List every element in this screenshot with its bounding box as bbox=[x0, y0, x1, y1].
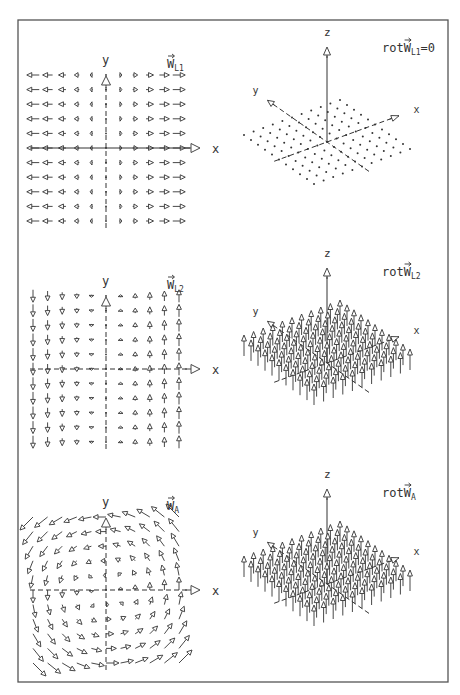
curl-vector-head bbox=[291, 590, 296, 596]
curl-vector-head bbox=[369, 363, 374, 369]
grid-point bbox=[312, 131, 314, 133]
field-vector-head bbox=[34, 627, 38, 633]
grid-point bbox=[381, 128, 383, 130]
field-vector-head bbox=[149, 219, 154, 224]
field-vector-head bbox=[31, 429, 36, 434]
field-vector-head bbox=[74, 426, 79, 430]
grid-point bbox=[316, 145, 318, 147]
grid-point bbox=[347, 156, 349, 158]
field-vector-shaft bbox=[46, 575, 47, 581]
field-vector-head bbox=[149, 102, 154, 107]
curl-vector-head bbox=[291, 560, 296, 566]
curl-vector-head bbox=[363, 549, 368, 555]
field-vector-shaft bbox=[73, 546, 77, 548]
curl-vector-head bbox=[318, 337, 323, 343]
curl-vector-head bbox=[261, 549, 266, 555]
grid-point bbox=[307, 148, 309, 150]
curl-vector-head bbox=[369, 584, 374, 590]
curl-vector-head bbox=[249, 340, 254, 346]
grid-point bbox=[302, 165, 304, 167]
curl-vector-head bbox=[287, 326, 292, 332]
curl-vector-head bbox=[293, 361, 298, 367]
grid-point bbox=[285, 163, 287, 165]
grid-point bbox=[304, 156, 306, 158]
grid-point bbox=[366, 149, 368, 151]
curl-vector-head bbox=[336, 581, 341, 587]
curl-vector-head bbox=[338, 521, 343, 527]
field-vector-head bbox=[43, 116, 48, 121]
field-vector-head bbox=[120, 175, 122, 180]
field-vector-head bbox=[31, 414, 36, 419]
field-vector-head bbox=[120, 189, 122, 194]
field-vector-head bbox=[43, 73, 48, 78]
curl-vector-head bbox=[350, 370, 355, 376]
field-vector-shaft bbox=[150, 630, 154, 634]
field-vector-shaft bbox=[31, 575, 33, 583]
field-vector-head bbox=[108, 513, 113, 518]
field-vector-shaft bbox=[61, 575, 62, 578]
field-vector-head bbox=[90, 204, 92, 209]
grid-point bbox=[302, 135, 304, 137]
field-vector-head bbox=[164, 204, 169, 209]
curl-vector-head bbox=[277, 360, 282, 366]
field-vector-shaft bbox=[91, 663, 99, 665]
curl-vector-head bbox=[298, 565, 303, 571]
curl-vector-head bbox=[360, 367, 365, 373]
curl-vector-head bbox=[325, 342, 330, 348]
grid-point bbox=[243, 134, 245, 136]
grid-point bbox=[333, 146, 335, 148]
curl-vector-head bbox=[339, 543, 344, 549]
field-vector-shaft bbox=[88, 546, 91, 547]
curl-vector-head bbox=[332, 347, 337, 353]
curl-vector-head bbox=[338, 300, 343, 306]
field-vector-head bbox=[31, 341, 36, 346]
field-vector-head bbox=[52, 534, 57, 539]
field-vector-head bbox=[90, 604, 94, 608]
grid-point bbox=[316, 175, 318, 177]
field-vector-head bbox=[74, 591, 79, 595]
field-vector-head bbox=[103, 573, 105, 578]
curl-vector-head bbox=[387, 555, 392, 561]
field-vector-shaft bbox=[33, 648, 40, 657]
field-vector-head bbox=[143, 657, 149, 661]
field-vector-head bbox=[149, 175, 154, 180]
curl-vector-head bbox=[360, 336, 365, 342]
field-vector-head bbox=[90, 175, 92, 180]
grid-point bbox=[264, 149, 266, 151]
field-vector-head bbox=[70, 666, 76, 671]
curl-vector-head bbox=[289, 569, 294, 575]
field-vector-head bbox=[74, 204, 78, 209]
field-vector-shaft bbox=[62, 605, 63, 608]
field-vector-head bbox=[74, 73, 78, 78]
field-vector-head bbox=[58, 73, 63, 78]
grid-point bbox=[350, 147, 352, 149]
curl-vector-head bbox=[306, 540, 311, 546]
grid-point bbox=[290, 147, 292, 149]
curl-vector-head bbox=[301, 557, 306, 563]
field-vector-shaft bbox=[43, 546, 48, 552]
grid-point bbox=[315, 123, 317, 125]
curl-vector-head bbox=[299, 535, 304, 541]
grid-point bbox=[320, 106, 322, 108]
field-vector-head bbox=[74, 324, 79, 328]
field-vector-head bbox=[40, 551, 45, 556]
panels: xyWL1zyxrotWL1=0xyWL2zyxrotWL2xyWAzyxrot… bbox=[20, 26, 435, 676]
field-vector-shaft bbox=[143, 527, 149, 532]
grid-point bbox=[262, 127, 264, 129]
curl-vector-head bbox=[384, 343, 389, 349]
grid-point bbox=[250, 139, 252, 141]
grid-point bbox=[357, 152, 359, 154]
grid-point bbox=[364, 157, 366, 159]
field-vector-head bbox=[81, 531, 86, 536]
grid-point bbox=[390, 155, 392, 157]
field-vector-head bbox=[96, 647, 101, 652]
curl-vector-head bbox=[332, 568, 337, 574]
field-vector-head bbox=[74, 382, 79, 386]
field-vector-shaft bbox=[150, 602, 151, 605]
z-axis-3d-arrow-head bbox=[324, 268, 331, 276]
grid-point bbox=[371, 132, 373, 134]
field-vector-head bbox=[162, 408, 167, 413]
curl-vector-head bbox=[263, 350, 268, 356]
field-vector-head bbox=[180, 87, 185, 92]
curl-vector-head bbox=[348, 569, 353, 575]
